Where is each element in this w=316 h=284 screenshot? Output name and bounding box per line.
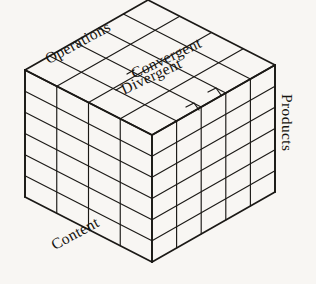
cube-diagram [0,0,316,284]
cube-geometry [25,0,275,262]
figure-container: Operations Convergent Divergent Products… [0,0,316,284]
axis-label-products: Products [278,94,296,151]
